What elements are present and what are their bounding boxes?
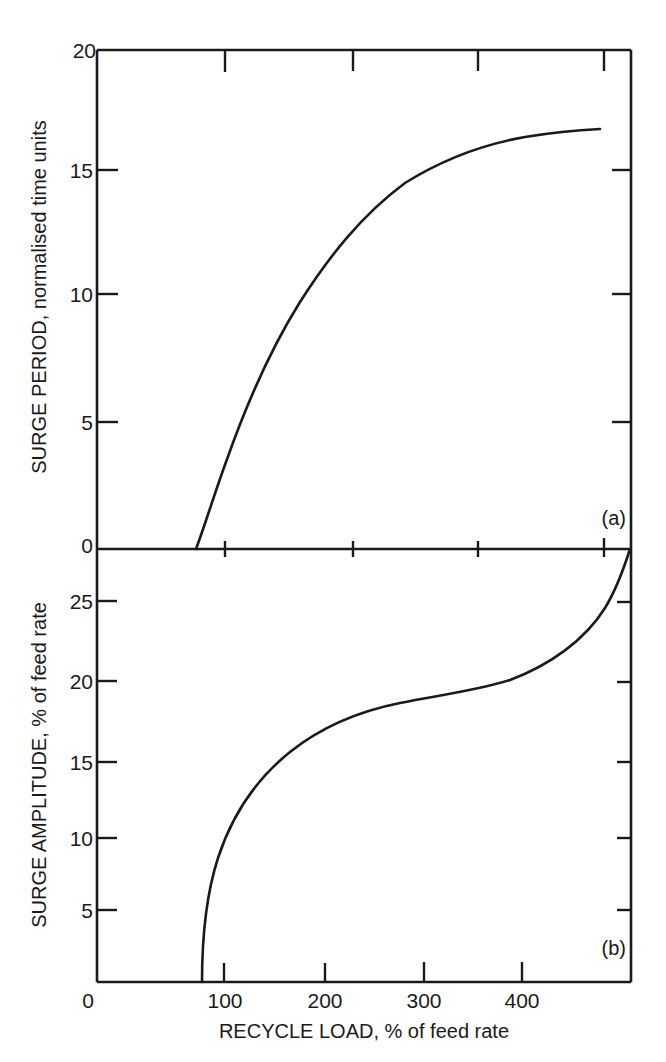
figure-svg: 20 15 10 5 0 25 20 15 10 5 0 100 200 300… xyxy=(0,0,666,1062)
y-tick-a-20: 20 xyxy=(73,39,96,62)
y-axis-title-b: SURGE AMPLITUDE, % of feed rate xyxy=(28,602,50,928)
y-tick-b-10: 10 xyxy=(70,827,93,850)
ticks xyxy=(97,50,631,982)
y-tick-a-15: 15 xyxy=(70,159,93,182)
y-tick-b-15: 15 xyxy=(70,751,93,774)
x-tick-labels: 0 100 200 300 400 xyxy=(82,989,539,1012)
x-tick-0: 0 xyxy=(82,989,94,1012)
x-tick-300: 300 xyxy=(406,989,441,1012)
y-tick-b-25: 25 xyxy=(70,590,93,613)
panel-label-b: (b) xyxy=(602,937,626,959)
surge-amplitude-curve xyxy=(202,549,630,982)
y-tick-b-5: 5 xyxy=(81,899,93,922)
surge-period-curve xyxy=(196,129,600,549)
y-tick-a-5: 5 xyxy=(81,411,93,434)
y-tick-labels-b: 25 20 15 10 5 xyxy=(70,590,93,922)
y-axis-title-a: SURGE PERIOD, normalised time units xyxy=(28,120,50,473)
y-tick-a-0: 0 xyxy=(81,534,93,557)
y-tick-labels-a: 20 15 10 5 0 xyxy=(70,39,96,557)
x-tick-200: 200 xyxy=(307,989,342,1012)
x-tick-400: 400 xyxy=(504,989,539,1012)
panel-label-a: (a) xyxy=(602,507,626,529)
frame xyxy=(97,50,631,982)
x-tick-100: 100 xyxy=(207,989,242,1012)
y-tick-b-20: 20 xyxy=(70,670,93,693)
y-tick-a-10: 10 xyxy=(70,283,93,306)
x-axis-title: RECYCLE LOAD, % of feed rate xyxy=(219,1020,509,1042)
